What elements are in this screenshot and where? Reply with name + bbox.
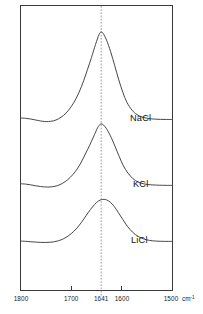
tick-label-1641: 1641 — [94, 295, 109, 302]
axis-unit-label: cm-1 — [182, 295, 195, 303]
plot-frame — [21, 6, 173, 291]
spectrum-curve-licl — [21, 199, 173, 242]
axis-unit-exponent: -1 — [191, 295, 196, 300]
axis-ticks — [21, 286, 173, 291]
spectra-figure: NaCl KCl LiCl 1800 1700 1641 1600 1500 c… — [0, 0, 203, 314]
tick-label-1500: 1500 — [164, 295, 179, 302]
axis-unit-base: cm — [182, 295, 191, 302]
spectrum-curve-nacl — [21, 32, 173, 122]
tick-label-1600: 1600 — [115, 295, 130, 302]
spectrum-curve-kcl — [21, 124, 173, 187]
curve-label-nacl: NaCl — [130, 113, 151, 123]
spectrum-curves — [21, 32, 173, 243]
curve-label-licl: LiCl — [131, 235, 148, 245]
tick-label-1800: 1800 — [14, 295, 29, 302]
curve-label-kcl: KCl — [133, 179, 148, 189]
spectra-plot: NaCl KCl LiCl 1800 1700 1641 1600 1500 c… — [0, 0, 203, 314]
tick-label-1700: 1700 — [64, 295, 79, 302]
